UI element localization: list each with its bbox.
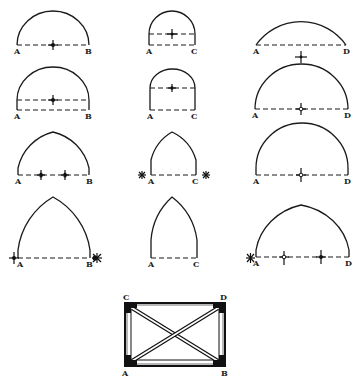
label-a: A [13, 46, 21, 56]
centre-cross-icon [48, 40, 58, 50]
label-a: A [147, 176, 155, 186]
arch-r4-ac: A C [147, 197, 199, 269]
label-a: A [252, 258, 260, 268]
label-a: A [16, 259, 24, 269]
centre-cross-icon [167, 29, 177, 39]
centre-cross-icon [279, 251, 289, 265]
arch-r3-ac: A C [138, 132, 210, 186]
centre-cross-icon [48, 95, 58, 105]
arch-r4-ab: A B [9, 197, 102, 269]
label-a: A [252, 46, 260, 56]
centre-cross-icon [316, 250, 326, 264]
label-a: A [145, 46, 153, 56]
label-c: C [192, 176, 198, 186]
arch-diagram: A B A C A D A B [0, 0, 360, 381]
star-centre-icon [202, 171, 210, 179]
label-d: D [344, 110, 351, 120]
arch-r1-ab: A B [13, 11, 92, 56]
arch-r2-ad: A D [251, 64, 351, 120]
label-a: A [121, 368, 129, 378]
label-a: A [252, 176, 260, 186]
label-c: C [193, 259, 199, 269]
arch-r2-ab: A B [13, 67, 92, 121]
arch-r3-ad: A D [252, 123, 351, 186]
label-c: C [191, 46, 197, 56]
arch-r2-ac: A C [146, 69, 197, 121]
label-b: B [86, 259, 93, 269]
label-c: C [123, 292, 129, 302]
label-d: D [344, 176, 351, 186]
star-centre-icon [138, 171, 146, 179]
arch-r3-ab: A B [14, 132, 93, 186]
label-d: D [343, 46, 350, 56]
label-b: B [86, 176, 93, 186]
label-a: A [146, 111, 154, 121]
centre-cross-icon [37, 170, 45, 180]
label-a: A [251, 110, 259, 120]
label-b: B [85, 111, 92, 121]
centre-cross-icon [296, 103, 306, 115]
label-a: A [13, 111, 21, 121]
vault-plan: C D A B [121, 292, 228, 378]
arch-r4-ad: A D [246, 205, 352, 268]
label-d: D [220, 292, 227, 302]
label-b: B [221, 368, 228, 378]
centre-cross-icon [61, 170, 69, 180]
label-a: A [147, 259, 155, 269]
arch-r1-ac: A C [145, 11, 197, 56]
centre-cross-icon [296, 168, 306, 182]
arch-r1-ad: A D [252, 22, 350, 63]
centre-cross-icon [295, 51, 307, 63]
label-b: B [85, 46, 92, 56]
star-centre-icon [92, 253, 102, 263]
label-c: C [191, 111, 197, 121]
label-d: D [345, 258, 352, 268]
label-a: A [14, 176, 22, 186]
centre-cross-icon [168, 84, 176, 92]
